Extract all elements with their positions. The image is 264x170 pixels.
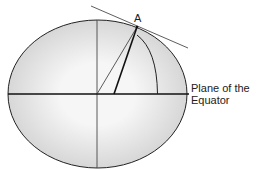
equator-label-line2: Equator: [191, 95, 230, 106]
equator-label-line1: Plane of the: [191, 83, 250, 94]
point-a-label: A: [134, 13, 141, 24]
point-a-marker: [136, 26, 139, 29]
